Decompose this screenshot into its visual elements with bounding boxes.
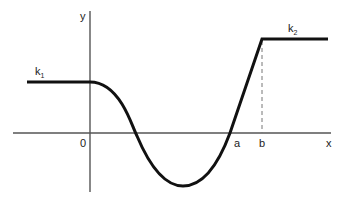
k2-subscript: 2 (294, 29, 298, 36)
k2-label: k2 (288, 22, 298, 36)
function-curve (27, 39, 328, 186)
function-diagram: y 0 a b x k1 k2 (0, 0, 342, 201)
y-axis-label: y (80, 10, 86, 22)
x-axis-label: x (326, 137, 332, 149)
a-tick-label: a (234, 137, 241, 149)
b-tick-label: b (259, 137, 265, 149)
k1-subscript: 1 (41, 72, 45, 79)
origin-label: 0 (80, 137, 86, 149)
k1-label: k1 (35, 65, 45, 79)
